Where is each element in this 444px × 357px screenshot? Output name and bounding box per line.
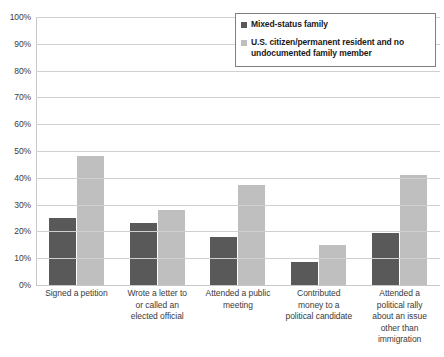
- x-tick-label: Wrote a letter toor called anelected off…: [117, 288, 198, 323]
- bar: [158, 210, 185, 285]
- x-tick-label-line: or called an: [117, 300, 198, 312]
- bar: [319, 245, 346, 285]
- x-tick-label-line: about an issue: [359, 311, 440, 323]
- y-tick-label: 50%: [14, 147, 31, 156]
- bar: [130, 223, 157, 285]
- x-tick-label-line: political rally: [359, 300, 440, 312]
- x-axis-category-labels: Signed a petitionWrote a letter toor cal…: [36, 288, 440, 357]
- gridline: [36, 151, 440, 152]
- legend-entry: Mixed-status family: [241, 19, 430, 31]
- x-tick-label-line: Attended a: [359, 288, 440, 300]
- bar: [400, 175, 427, 285]
- chart-legend: Mixed-status familyU.S. citizen/permanen…: [235, 13, 436, 67]
- legend-label-line: Mixed-status family: [251, 19, 328, 31]
- y-tick-label: 10%: [14, 254, 31, 263]
- y-tick-label: 90%: [14, 40, 31, 49]
- bar: [238, 185, 265, 286]
- gridline: [36, 178, 440, 179]
- x-tick-label-line: meeting: [198, 300, 279, 312]
- x-tick-label: Signed a petition: [36, 288, 117, 300]
- bar-chart: 100%90%80%70%60%50%40%30%20%10%0% Signed…: [0, 0, 444, 357]
- x-tick-label: Attended a publicmeeting: [198, 288, 279, 311]
- gridline: [36, 258, 440, 259]
- x-tick-label-line: Wrote a letter to: [117, 288, 198, 300]
- gridline: [36, 124, 440, 125]
- legend-label-line: undocumented family member: [251, 48, 404, 60]
- gridline: [36, 97, 440, 98]
- x-tick-label-line: Signed a petition: [36, 288, 117, 300]
- y-tick-label: 0%: [19, 281, 31, 290]
- x-tick-label-line: money to a: [278, 300, 359, 312]
- bar: [49, 218, 76, 285]
- y-tick-label: 20%: [14, 227, 31, 236]
- gridline: [36, 231, 440, 232]
- legend-swatch-icon: [241, 22, 247, 28]
- y-tick-label: 60%: [14, 120, 31, 129]
- gridline: [36, 205, 440, 206]
- bar: [291, 262, 318, 285]
- legend-label: U.S. citizen/permanent resident and noun…: [251, 37, 404, 60]
- y-tick-label: 70%: [14, 93, 31, 102]
- x-axis-line: [36, 285, 440, 286]
- x-tick-label-line: Contributed: [278, 288, 359, 300]
- gridline: [36, 71, 440, 72]
- x-tick-label: Attended apolitical rallyabout an issueo…: [359, 288, 440, 346]
- bar: [77, 156, 104, 285]
- x-tick-label-line: other than: [359, 323, 440, 335]
- x-tick-label-line: political candidate: [278, 311, 359, 323]
- y-tick-label: 30%: [14, 200, 31, 209]
- y-tick-label: 40%: [14, 174, 31, 183]
- legend-label-line: U.S. citizen/permanent resident and no: [251, 37, 404, 49]
- x-tick-label-line: immigration: [359, 334, 440, 346]
- x-tick-label-line: Attended a public: [198, 288, 279, 300]
- y-tick-label: 80%: [14, 66, 31, 75]
- legend-entry: U.S. citizen/permanent resident and noun…: [241, 37, 430, 60]
- bar: [210, 237, 237, 285]
- legend-swatch-icon: [241, 40, 247, 46]
- y-tick-label: 100%: [10, 13, 31, 22]
- x-tick-label-line: elected official: [117, 311, 198, 323]
- x-tick-label: Contributedmoney to apolitical candidate: [278, 288, 359, 323]
- y-axis: 100%90%80%70%60%50%40%30%20%10%0%: [0, 0, 36, 357]
- legend-label: Mixed-status family: [251, 19, 328, 31]
